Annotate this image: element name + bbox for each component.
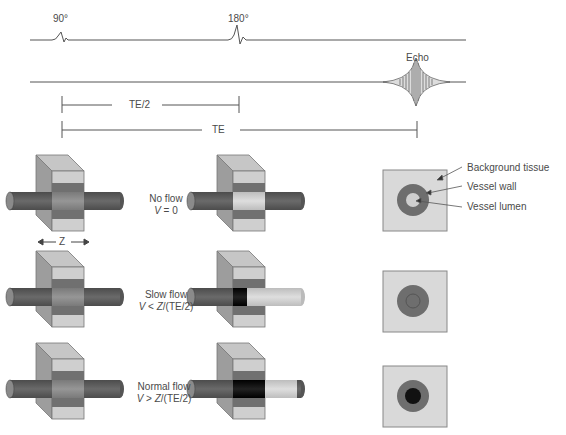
row-title: Normal flow [120, 381, 208, 393]
diagram-canvas [0, 0, 566, 435]
te-bracket [62, 121, 417, 138]
cross-section-normal-flow [383, 366, 447, 427]
row-condition: V < Z/(TE/2) [122, 301, 210, 313]
row-title: No flow [134, 193, 198, 205]
legend-vessel-wall: Vessel wall [467, 181, 516, 193]
legend-background-tissue: Background tissue [467, 162, 549, 174]
pulse-180-label: 180° [228, 13, 249, 25]
rf-pulse-line [30, 25, 466, 44]
cross-section-no-flow [383, 167, 462, 231]
cross-section-slow-flow [383, 271, 447, 332]
echo-label: Echo [406, 52, 429, 64]
normal-flow-label: Normal flow V > Z/(TE/2) [120, 381, 208, 405]
te-label: TE [212, 124, 225, 136]
row-condition: V = 0 [134, 205, 198, 217]
te-half-label: TE/2 [129, 99, 150, 111]
slice-thickness-label: Z [59, 236, 65, 248]
te-half-bracket [62, 96, 239, 113]
legend-vessel-lumen: Vessel lumen [467, 201, 526, 213]
row-condition: V > Z/(TE/2) [120, 393, 208, 405]
no-flow-label: No flow V = 0 [134, 193, 198, 217]
echo-signal [383, 58, 450, 106]
pulse-90-label: 90° [53, 13, 68, 25]
row-title: Slow flow [122, 289, 210, 301]
slow-flow-label: Slow flow V < Z/(TE/2) [122, 289, 210, 313]
